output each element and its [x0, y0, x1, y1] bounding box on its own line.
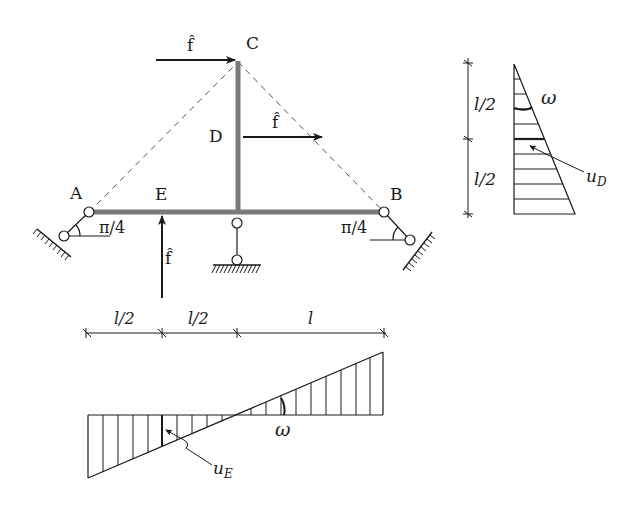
node-label-E: E	[155, 184, 167, 204]
dim-label-h2: l/2	[188, 309, 209, 328]
beam-displacement-diagram	[88, 352, 383, 478]
node-label-D: D	[209, 126, 223, 146]
node-label-A: A	[69, 183, 83, 203]
dim-label-h3: l	[308, 309, 313, 328]
load-label-E: f̂	[165, 248, 173, 268]
uE-leader	[184, 440, 212, 465]
frame-members	[94, 61, 379, 212]
displacement-label-uE: uE	[213, 458, 233, 481]
support-B	[370, 207, 435, 271]
angle-label-left: π/4	[99, 218, 125, 237]
load-label-D: f̂	[272, 112, 280, 132]
rotation-arc-vertical	[514, 107, 532, 110]
node-label-B: B	[390, 184, 403, 204]
rotation-arc-horizontal	[281, 398, 285, 415]
structural-diagram: C D A E B f̂ f̂ f̂ π/4 π/4 l/2 l/2 l l/2…	[0, 0, 634, 509]
dim-label-v1: l/2	[474, 94, 496, 114]
load-label-C: f̂	[187, 35, 195, 55]
dimension-line-horizontal	[83, 328, 388, 338]
rotation-label-horizontal: ω	[275, 418, 291, 440]
dim-label-h1: l/2	[114, 309, 135, 328]
support-middle	[212, 218, 261, 273]
dim-label-v2: l/2	[474, 169, 496, 189]
node-label-C: C	[246, 33, 259, 53]
dimension-line-vertical	[463, 58, 473, 218]
displacement-label-uD: uD	[586, 166, 607, 189]
rotation-label-vertical: ω	[541, 86, 557, 108]
angle-label-right: π/4	[341, 218, 367, 237]
